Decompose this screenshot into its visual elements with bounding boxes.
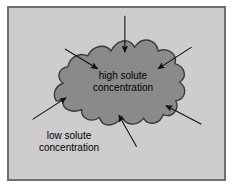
high-concentration-label-line2: concentration (75, 82, 171, 94)
arrow-lower-left (33, 98, 66, 119)
low-concentration-label-line1: low solute (21, 130, 117, 142)
diagram-frame: high solute concentration low solute con… (7, 6, 226, 181)
low-concentration-label: low solute concentration (21, 130, 117, 154)
figure-root: high solute concentration low solute con… (0, 0, 237, 192)
high-concentration-label: high solute concentration (75, 70, 171, 94)
high-concentration-label-line1: high solute (75, 70, 171, 82)
low-concentration-label-line2: concentration (21, 142, 117, 154)
